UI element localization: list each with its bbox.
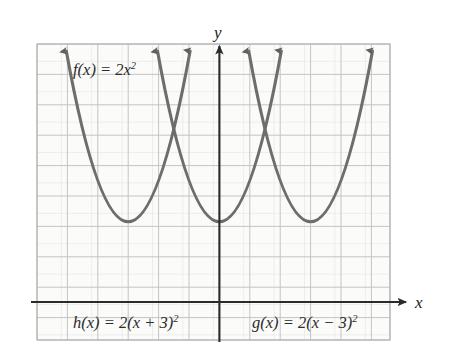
label-f-exponent: 2 [131, 60, 137, 71]
x-axis-label: x [414, 293, 423, 312]
parabola-transformation-figure: y x f(x) = 2x2 h(x) = 2(x + 3)2 g(x) = 2… [0, 0, 453, 356]
label-g-equation: g(x) = 2(x − 3)2 [252, 313, 358, 332]
label-g-text: g(x) = 2(x − 3) [252, 313, 352, 332]
graph-canvas: y x f(x) = 2x2 h(x) = 2(x + 3)2 g(x) = 2… [0, 0, 453, 356]
label-g-exponent: 2 [352, 313, 358, 324]
label-f-text: f(x) = 2x [73, 60, 132, 79]
label-f-equation: f(x) = 2x2 [73, 60, 137, 79]
label-h-exponent: 2 [173, 313, 179, 324]
y-axis-label: y [212, 23, 222, 42]
label-h-text: h(x) = 2(x + 3) [73, 313, 173, 332]
label-h-equation: h(x) = 2(x + 3)2 [73, 313, 179, 332]
